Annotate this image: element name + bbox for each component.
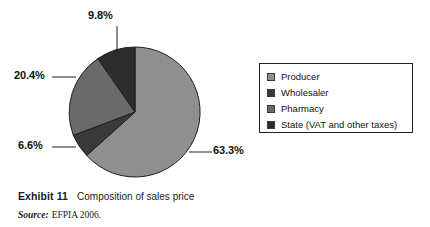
source-note: Source:EFPIA 2006.: [18, 210, 101, 220]
pie-label-wholesaler: 6.6%: [18, 139, 43, 151]
exhibit-title: Composition of sales price: [77, 191, 194, 202]
pie-label-pharmacy: 20.4%: [14, 69, 45, 81]
legend-label-pharmacy: Pharmacy: [281, 103, 324, 114]
legend-item-producer[interactable]: Producer: [267, 69, 412, 84]
source-text: EFPIA 2006.: [52, 210, 102, 220]
legend-swatch-state: [267, 121, 275, 129]
legend-label-state: State (VAT and other taxes): [281, 119, 397, 130]
source-label: Source:: [18, 210, 49, 220]
legend-swatch-producer: [267, 73, 275, 81]
legend-item-pharmacy[interactable]: Pharmacy: [267, 101, 412, 116]
legend-item-state[interactable]: State (VAT and other taxes): [267, 117, 412, 132]
pie-chart-area: 9.8% 20.4% 6.6% 63.3%: [0, 0, 250, 190]
exhibit-caption: Exhibit 11Composition of sales price: [18, 190, 194, 202]
chart-legend: Producer Wholesaler Pharmacy State (VAT …: [259, 63, 413, 133]
legend-item-wholesaler[interactable]: Wholesaler: [267, 85, 412, 100]
exhibit-figure: 9.8% 20.4% 6.6% 63.3% Producer Wholesale…: [0, 0, 430, 227]
pie-label-producer: 63.3%: [213, 144, 244, 156]
legend-label-producer: Producer: [281, 71, 320, 82]
pie-chart-svg: [0, 0, 250, 190]
legend-label-wholesaler: Wholesaler: [281, 87, 329, 98]
exhibit-number: Exhibit 11: [18, 190, 68, 202]
legend-swatch-pharmacy: [267, 105, 275, 113]
pie-label-state: 9.8%: [88, 9, 113, 21]
legend-swatch-wholesaler: [267, 89, 275, 97]
